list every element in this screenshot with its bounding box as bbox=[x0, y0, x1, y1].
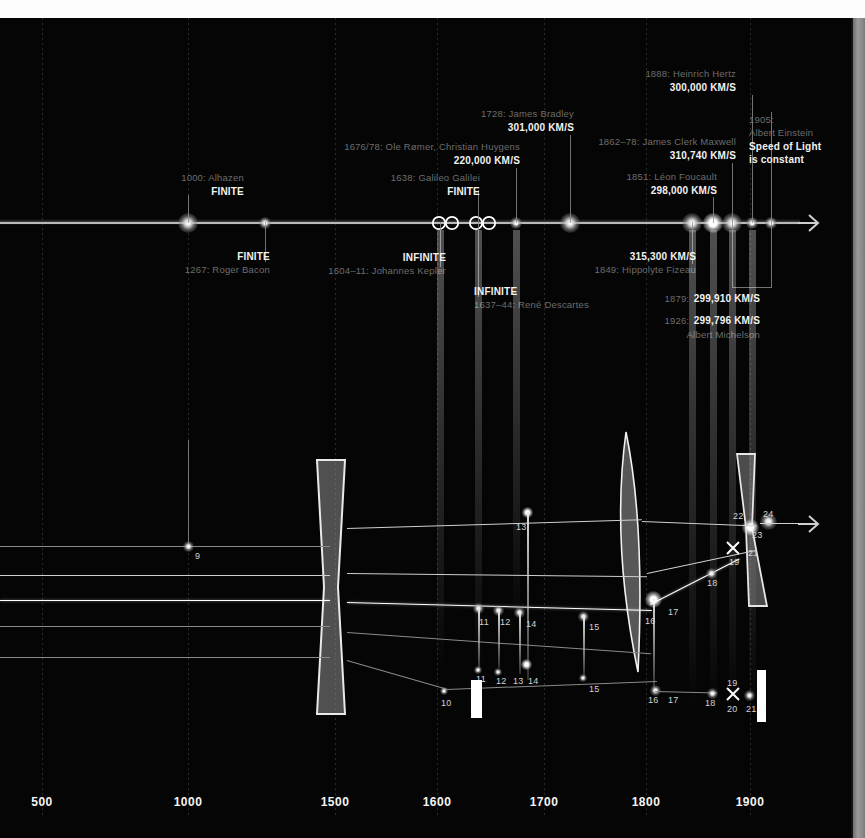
leader-michelson-1926 bbox=[771, 222, 772, 287]
xtick-1500: 1500 bbox=[321, 795, 350, 809]
num-13-low: 13 bbox=[513, 676, 524, 686]
label-bradley: 1728: James Bradley 301,000 KM/S bbox=[370, 108, 574, 134]
gridline-500 bbox=[42, 18, 43, 818]
num-18-mid: 18 bbox=[707, 578, 718, 588]
node-13-low[interactable] bbox=[521, 659, 532, 670]
label-michelson-1926-year: 1926: bbox=[664, 315, 689, 326]
xtick-1700: 1700 bbox=[530, 795, 559, 809]
label-foucault: 1851: Léon Foucault 298,000 KM/S bbox=[513, 171, 717, 197]
vlink-16 bbox=[653, 599, 655, 689]
label-bradley-year: 1728: James Bradley bbox=[370, 108, 574, 121]
light-trail-foucault bbox=[710, 230, 717, 710]
beam-in-1 bbox=[0, 546, 330, 547]
leader-alhazen bbox=[188, 195, 189, 223]
beam-in-2 bbox=[0, 575, 330, 576]
label-kepler-value: INFINITE bbox=[260, 251, 446, 265]
num-10: 10 bbox=[441, 698, 452, 708]
label-bacon: FINITE 1267: Roger Bacon bbox=[100, 250, 270, 276]
label-maxwell-value: 310,740 KM/S bbox=[532, 149, 736, 163]
num-12-low: 12 bbox=[496, 676, 507, 686]
label-romer: 1676/78: Ole Rømer, Christian Huygens 22… bbox=[236, 141, 520, 167]
num-18-low: 18 bbox=[705, 698, 716, 708]
label-romer-value: 220,000 KM/S bbox=[236, 154, 520, 168]
node-16-low[interactable] bbox=[650, 685, 661, 696]
label-einstein-value-2: is constant bbox=[749, 153, 864, 167]
label-foucault-year: 1851: Léon Foucault bbox=[513, 171, 717, 184]
beam-e bbox=[347, 660, 448, 690]
label-einstein-year: 1905: bbox=[749, 114, 864, 127]
concave-lens bbox=[314, 458, 348, 716]
vlink-13 bbox=[527, 512, 529, 680]
label-galileo: 1638: Galileo Galilei FINITE bbox=[298, 172, 480, 198]
diagram-arrow-icon bbox=[796, 511, 822, 537]
screen-slab-left bbox=[471, 680, 482, 718]
xtick-500: 500 bbox=[31, 795, 53, 809]
num-11-mid: 11 bbox=[479, 617, 489, 627]
num-14-low: 14 bbox=[528, 676, 539, 686]
label-fizeau-year: 1849: Hippolyte Fizeau bbox=[492, 264, 696, 277]
xtick-1800: 1800 bbox=[632, 795, 661, 809]
num-12-mid: 12 bbox=[500, 617, 511, 627]
label-maxwell-year: 1862–78: James Clerk Maxwell bbox=[532, 136, 736, 149]
gridline-1000 bbox=[188, 18, 189, 818]
num-9: 9 bbox=[195, 551, 200, 561]
label-hertz: 1888: Heinrich Hertz 300,000 KM/S bbox=[552, 68, 736, 94]
num-22: 22 bbox=[733, 511, 744, 521]
leader-foucault bbox=[713, 197, 714, 223]
infinity-icon-descartes bbox=[468, 215, 498, 231]
label-alhazen-year: 1000: Alhazen bbox=[64, 172, 244, 185]
label-fizeau: 315,300 KM/S 1849: Hippolyte Fizeau bbox=[492, 250, 696, 276]
label-bacon-value: FINITE bbox=[100, 250, 270, 264]
label-einstein-name: Albert Einstein bbox=[749, 127, 864, 140]
num-16-low: 16 bbox=[648, 695, 659, 705]
label-kepler-year: 1604–11: Johannes Kepler bbox=[260, 265, 446, 278]
top-white-band bbox=[0, 0, 865, 18]
vertical-scrollbar[interactable] bbox=[853, 18, 865, 838]
infographic-canvas: 1000: Alhazen FINITE 1638: Galileo Galil… bbox=[0, 0, 865, 838]
timeline-arrow-icon bbox=[796, 210, 822, 236]
node-15-low[interactable] bbox=[579, 674, 587, 682]
leader-node-9 bbox=[188, 440, 189, 546]
num-19-low: 19 bbox=[727, 678, 738, 688]
node-11-low[interactable] bbox=[474, 666, 482, 674]
label-maxwell: 1862–78: James Clerk Maxwell 310,740 KM/… bbox=[532, 136, 736, 162]
num-17-low: 17 bbox=[668, 695, 679, 705]
num-21-low: 21 bbox=[746, 704, 757, 714]
node-18-low[interactable] bbox=[707, 688, 718, 699]
num-17-mid: 17 bbox=[668, 607, 679, 617]
label-alhazen-value: FINITE bbox=[64, 185, 244, 199]
label-hertz-value: 300,000 KM/S bbox=[552, 81, 736, 95]
node-10[interactable] bbox=[440, 687, 448, 695]
label-alhazen: 1000: Alhazen FINITE bbox=[64, 172, 244, 198]
label-einstein-value-1: Speed of Light bbox=[749, 140, 864, 154]
xtick-1000: 1000 bbox=[174, 795, 203, 809]
label-kepler: INFINITE 1604–11: Johannes Kepler bbox=[260, 251, 446, 277]
beam-in-4 bbox=[0, 626, 330, 627]
num-14-mid: 14 bbox=[526, 619, 537, 629]
beam-b bbox=[347, 573, 647, 577]
label-galileo-value: FINITE bbox=[298, 185, 480, 199]
node-9[interactable] bbox=[183, 541, 194, 552]
vlink-12 bbox=[498, 610, 500, 668]
light-trail-fizeau bbox=[689, 230, 696, 710]
beam-a bbox=[347, 519, 642, 529]
label-michelson-1879-year: 1879: bbox=[664, 293, 689, 304]
screen-slab-right bbox=[757, 670, 766, 722]
num-20: 20 bbox=[727, 704, 738, 714]
label-bacon-year: 1267: Roger Bacon bbox=[100, 264, 270, 277]
node-21-low[interactable] bbox=[744, 690, 755, 701]
vlink-15 bbox=[583, 616, 585, 678]
label-romer-year: 1676/78: Ole Rømer, Christian Huygens bbox=[236, 141, 520, 154]
xtick-1900: 1900 bbox=[736, 795, 765, 809]
beam-in-5 bbox=[0, 657, 330, 658]
label-galileo-year: 1638: Galileo Galilei bbox=[298, 172, 480, 185]
node-12-low[interactable] bbox=[494, 668, 502, 676]
label-einstein: 1905: Albert Einstein Speed of Light is … bbox=[749, 114, 864, 167]
num-15-mid: 15 bbox=[589, 622, 600, 632]
label-bradley-value: 301,000 KM/S bbox=[370, 121, 574, 135]
label-fizeau-value: 315,300 KM/S bbox=[492, 250, 696, 264]
timeline-axis bbox=[0, 222, 800, 224]
num-23: 23 bbox=[752, 530, 763, 540]
node-18-mid[interactable] bbox=[706, 568, 717, 579]
label-hertz-year: 1888: Heinrich Hertz bbox=[552, 68, 736, 81]
